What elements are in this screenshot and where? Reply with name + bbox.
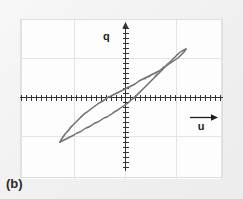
hysteresis-plot-svg [20, 19, 223, 179]
x-axis-label-u: u [190, 113, 219, 132]
y-axis-label-q: q [103, 31, 110, 42]
plot-area [20, 19, 223, 179]
y-axis-label-text: q [103, 30, 110, 42]
figure-panel-b: q u (b) [0, 0, 243, 199]
x-axis-label-text: u [190, 121, 212, 132]
panel-label: (b) [6, 176, 23, 192]
x-axis-ticks [22, 95, 221, 101]
u-label-arrow-icon [189, 113, 219, 121]
